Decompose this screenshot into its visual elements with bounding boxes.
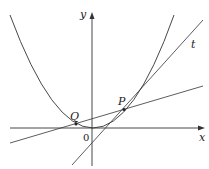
diagram: y x 0 P Q t [0,0,209,169]
origin-label: 0 [83,132,89,143]
point-q-label: Q [70,110,79,123]
point-p-label: P [117,95,126,108]
x-axis-arrow-icon [198,126,205,131]
plot-canvas: y x 0 P Q t [0,0,209,169]
y-axis-label: y [79,8,87,21]
y-axis-arrow-icon [90,12,95,19]
x-axis-label: x [199,131,206,144]
secant-line-pq [10,86,203,143]
tangent-label: t [191,38,196,51]
point-p [123,108,126,111]
